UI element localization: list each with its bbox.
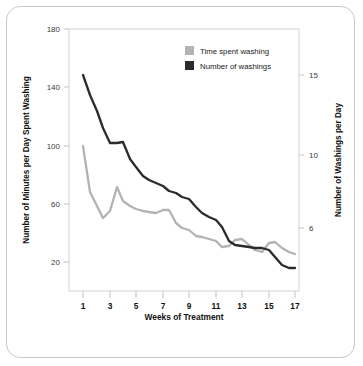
left-axis-title: Number of Minutes per Day Spent Washing [22,76,31,244]
x-tick-11: 11 [212,301,221,311]
x-tick-5: 5 [134,301,139,311]
x-tick-15: 15 [264,301,274,311]
x-tick-9: 9 [187,301,192,311]
left-tick-180: 180 [47,25,61,34]
legend-label-number-of-washings: Number of washings [200,62,271,71]
left-tick-100: 100 [47,142,61,151]
x-axis-title: Weeks of Treatment [145,312,224,322]
legend-label-time-spent-washing: Time spent washing [200,47,269,56]
x-tick-17: 17 [290,301,300,311]
right-tick-6: 6 [309,224,314,233]
chart-legend: Time spent washing Number of washings [185,46,271,71]
right-axis-ticks: 15 10 6 [299,71,318,233]
x-tick-13: 13 [237,301,247,311]
left-tick-140: 140 [47,83,61,92]
right-tick-15: 15 [309,71,318,80]
series-line-number-of-washings [83,75,295,268]
left-axis-ticks: 180 140 100 60 20 [47,25,69,267]
x-tick-3: 3 [108,301,113,311]
chart-area: Number of Minutes per Day Spent Washing … [7,7,356,359]
right-axis-title: Number of Washings per Day [334,103,343,217]
x-tick-7: 7 [161,301,166,311]
x-axis-ticks: 1 3 5 7 9 11 13 15 17 [81,291,300,311]
chart-card: Number of Minutes per Day Spent Washing … [6,6,355,358]
chart-svg: Number of Minutes per Day Spent Washing … [7,7,356,359]
legend-swatch-number-of-washings [185,61,194,70]
legend-swatch-time-spent-washing [185,46,194,55]
right-tick-10: 10 [309,151,318,160]
x-tick-1: 1 [81,301,86,311]
left-tick-20: 20 [51,258,60,267]
left-tick-60: 60 [51,200,60,209]
